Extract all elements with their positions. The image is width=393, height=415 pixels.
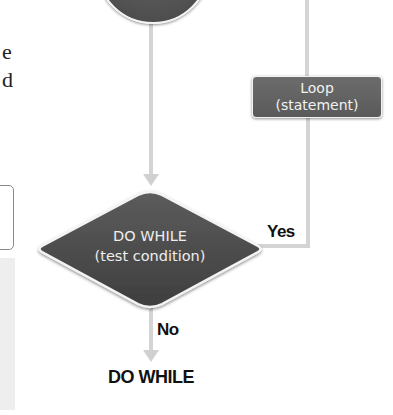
arrow-down-icon: [143, 174, 159, 186]
connector-top-to-loop: [305, 0, 309, 77]
connector-start-to-decision: [149, 20, 153, 180]
page-text-line-1: e: [2, 38, 12, 66]
side-callout-box: [0, 185, 14, 250]
side-gray-panel: [0, 258, 15, 410]
start-node: [96, 0, 210, 24]
page-text-line-2: d: [2, 66, 13, 94]
decision-node-label: DO WHILE (test condition): [70, 226, 230, 266]
decision-node-title: DO WHILE: [70, 226, 230, 246]
yes-edge-label: Yes: [267, 222, 295, 242]
connector-loop-down: [306, 118, 310, 248]
arrow-down-icon: [143, 350, 159, 362]
loop-node-subtitle: (statement): [253, 97, 381, 114]
decision-node-subtitle: (test condition): [70, 246, 230, 266]
loop-node-title: Loop: [253, 80, 381, 97]
no-edge-label: No: [157, 320, 179, 340]
flowchart-caption: DO WHILE: [108, 367, 194, 388]
loop-statement-node: Loop (statement): [252, 76, 382, 118]
connector-decision-to-exit: [149, 306, 153, 354]
